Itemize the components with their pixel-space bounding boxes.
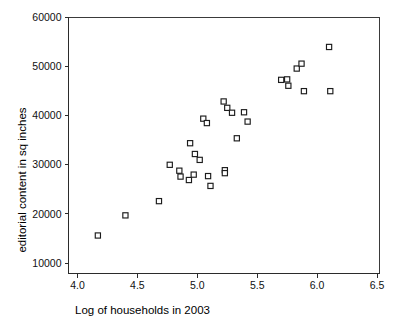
data-point [234, 136, 239, 141]
data-point-group [95, 44, 333, 238]
x-tick-label: 4.0 [70, 279, 85, 291]
data-point [326, 44, 331, 49]
data-point [204, 120, 209, 125]
data-point [229, 110, 234, 115]
x-axis-ticks: 4.04.55.05.56.06.5 [69, 18, 385, 291]
y-tick-label: 40000 [32, 109, 61, 121]
plot-canvas: 100002000030000400005000060000 4.04.55.0… [0, 0, 398, 333]
x-tick-label: 5.0 [190, 279, 205, 291]
scatter-plot-figure: 100002000030000400005000060000 4.04.55.0… [0, 0, 398, 333]
data-point [245, 119, 250, 124]
plot-frame [69, 18, 380, 274]
data-point [156, 199, 161, 204]
y-axis-ticks: 100002000030000400005000060000 [32, 11, 68, 269]
data-point [188, 141, 193, 146]
data-point [285, 77, 290, 82]
y-tick-label: 50000 [32, 60, 61, 72]
y-tick-label: 20000 [32, 208, 61, 220]
y-tick-label: 30000 [32, 158, 61, 170]
data-point [177, 168, 182, 173]
data-point [205, 173, 210, 178]
data-point [192, 151, 197, 156]
data-point [208, 183, 213, 188]
data-point [279, 77, 284, 82]
data-point [241, 110, 246, 115]
x-axis-title: Log of households in 2003 [75, 304, 210, 316]
data-point [95, 233, 100, 238]
data-point [197, 157, 202, 162]
data-point [191, 172, 196, 177]
x-tick-label: 5.5 [250, 279, 265, 291]
x-tick-label: 6.0 [310, 279, 325, 291]
y-tick-label: 10000 [32, 257, 61, 269]
x-tick-label: 4.5 [130, 279, 145, 291]
data-point [178, 174, 183, 179]
data-point [222, 171, 227, 176]
data-point [221, 99, 226, 104]
data-point [123, 213, 128, 218]
y-tick-label: 60000 [32, 11, 61, 23]
y-axis-title: editorial content in sq inches [16, 107, 28, 252]
data-point [328, 89, 333, 94]
data-point [186, 177, 191, 182]
x-tick-label: 6.5 [370, 279, 385, 291]
data-point [167, 162, 172, 167]
data-point [286, 83, 291, 88]
data-point [299, 61, 304, 66]
data-point [301, 89, 306, 94]
